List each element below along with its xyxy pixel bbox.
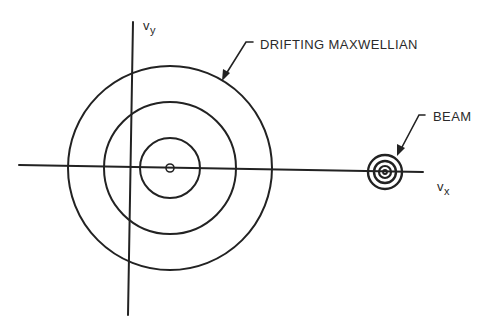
arrowhead-icon <box>397 144 405 156</box>
vx-axis <box>19 165 423 172</box>
beam-leader-line <box>401 115 425 149</box>
vy-subscript: y <box>150 24 156 36</box>
vx-subscript: x <box>444 185 450 197</box>
vy-axis-label: vy <box>143 18 156 36</box>
maxwellian-leader <box>222 42 253 81</box>
axes <box>19 22 423 315</box>
beam-leader <box>397 115 425 156</box>
beam-label: BEAM <box>433 109 471 124</box>
maxwellian-label: DRIFTING MAXWELLIAN <box>260 37 418 52</box>
vx-axis-label: vx <box>437 179 450 197</box>
velocity-distribution-diagram: DRIFTING MAXWELLIAN BEAM vy vx <box>0 0 489 331</box>
maxwellian-leader-line <box>226 42 253 74</box>
vy-axis <box>128 22 133 315</box>
